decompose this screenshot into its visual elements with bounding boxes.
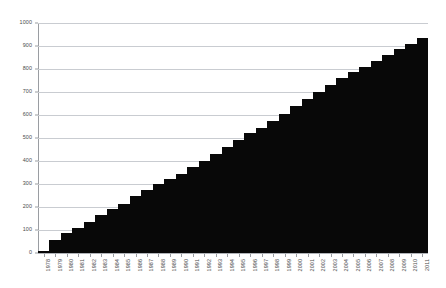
x-tick-label: 1981: [80, 259, 85, 271]
x-tick-label: 2002: [321, 259, 326, 271]
x-tick-mark: [55, 254, 56, 257]
x-tick-mark: [78, 254, 79, 257]
y-tick-label: 900: [23, 43, 32, 48]
x-tick-label: 1998: [275, 259, 280, 271]
x-tick-label: 1985: [126, 259, 131, 271]
x-tick-mark: [227, 254, 228, 257]
x-tick-label: 1987: [149, 259, 154, 271]
cumulative-bar-chart: 01002003004005006007008009001000 1978197…: [0, 0, 446, 288]
x-tick-mark: [388, 254, 389, 257]
x-axis-labels: 1978197919801981198219831984198519861987…: [38, 254, 428, 288]
x-tick-label: 2000: [298, 259, 303, 271]
bar[interactable]: [348, 72, 360, 253]
y-tick-label: 400: [23, 158, 32, 163]
bar[interactable]: [371, 61, 383, 253]
x-tick-label: 1993: [218, 259, 223, 271]
bar[interactable]: [302, 99, 314, 253]
x-tick-label: 2011: [425, 259, 430, 271]
x-tick-label: 2008: [390, 259, 395, 271]
x-tick-label: 1988: [161, 259, 166, 271]
x-tick-mark: [262, 254, 263, 257]
bar[interactable]: [222, 147, 234, 253]
x-tick-mark: [422, 254, 423, 257]
bar[interactable]: [256, 128, 268, 253]
bar[interactable]: [61, 233, 73, 253]
bar[interactable]: [267, 121, 279, 253]
x-tick-mark: [411, 254, 412, 257]
bar[interactable]: [394, 49, 406, 253]
x-tick-mark: [101, 254, 102, 257]
x-tick-label: 1995: [241, 259, 246, 271]
bar[interactable]: [107, 209, 119, 253]
y-axis-labels: 01002003004005006007008009001000: [0, 0, 36, 288]
bar[interactable]: [164, 179, 176, 253]
y-tick-label: 800: [23, 66, 32, 71]
x-tick-mark: [376, 254, 377, 257]
bars-layer: [38, 23, 428, 253]
bar[interactable]: [95, 215, 107, 253]
x-tick-label: 2009: [402, 259, 407, 271]
bar[interactable]: [49, 240, 61, 253]
bar[interactable]: [233, 140, 245, 253]
x-tick-label: 1996: [253, 259, 258, 271]
bar[interactable]: [130, 196, 142, 254]
x-tick-label: 1978: [46, 259, 51, 271]
bar[interactable]: [279, 114, 291, 253]
x-tick-mark: [353, 254, 354, 257]
y-tick-label: 1000: [20, 20, 32, 25]
y-tick-label: 100: [23, 227, 32, 232]
x-tick-label: 1989: [172, 259, 177, 271]
x-tick-label: 2001: [310, 259, 315, 271]
bar[interactable]: [72, 228, 84, 253]
bar[interactable]: [118, 204, 130, 253]
x-tick-mark: [181, 254, 182, 257]
bar[interactable]: [210, 154, 222, 253]
x-tick-mark: [113, 254, 114, 257]
x-tick-label: 2006: [367, 259, 372, 271]
x-tick-mark: [44, 254, 45, 257]
x-tick-mark: [90, 254, 91, 257]
x-tick-mark: [193, 254, 194, 257]
bar[interactable]: [336, 78, 348, 253]
x-tick-mark: [147, 254, 148, 257]
x-tick-mark: [124, 254, 125, 257]
x-tick-mark: [273, 254, 274, 257]
bar[interactable]: [199, 161, 211, 253]
bar[interactable]: [382, 55, 394, 253]
bar[interactable]: [38, 251, 50, 253]
y-tick-label: 600: [23, 112, 32, 117]
x-tick-mark: [365, 254, 366, 257]
y-tick-label: 200: [23, 204, 32, 209]
x-tick-mark: [331, 254, 332, 257]
x-tick-label: 1991: [195, 259, 200, 271]
bar[interactable]: [176, 174, 188, 253]
x-tick-mark: [342, 254, 343, 257]
x-tick-label: 2010: [413, 259, 418, 271]
bar[interactable]: [153, 184, 165, 253]
x-tick-label: 2004: [344, 259, 349, 271]
x-tick-mark: [216, 254, 217, 257]
x-tick-label: 1992: [207, 259, 212, 271]
bar[interactable]: [290, 106, 302, 253]
bar[interactable]: [417, 38, 429, 253]
bar[interactable]: [244, 133, 256, 253]
bar[interactable]: [405, 44, 417, 253]
x-tick-mark: [250, 254, 251, 257]
x-tick-mark: [170, 254, 171, 257]
bar[interactable]: [141, 190, 153, 253]
bar[interactable]: [359, 67, 371, 253]
bar[interactable]: [187, 167, 199, 253]
x-tick-mark: [308, 254, 309, 257]
x-tick-label: 1982: [92, 259, 97, 271]
x-tick-label: 1990: [184, 259, 189, 271]
x-tick-mark: [204, 254, 205, 257]
plot-area: [38, 23, 428, 253]
x-tick-mark: [67, 254, 68, 257]
bar[interactable]: [313, 92, 325, 253]
x-tick-mark: [285, 254, 286, 257]
x-tick-mark: [399, 254, 400, 257]
bar[interactable]: [325, 85, 337, 253]
x-tick-mark: [296, 254, 297, 257]
bar[interactable]: [84, 222, 96, 253]
x-tick-label: 1980: [69, 259, 74, 271]
